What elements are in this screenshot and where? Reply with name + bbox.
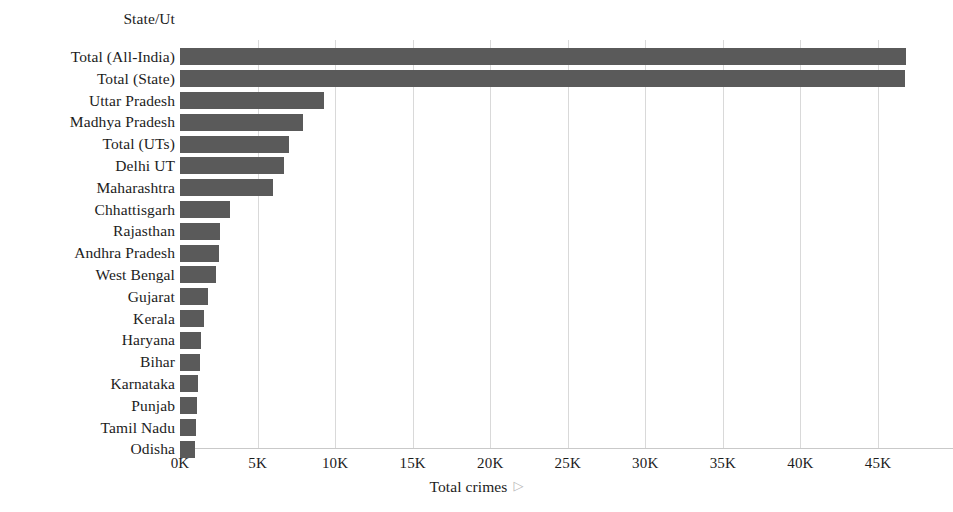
bar-row-label: Madhya Pradesh [0,111,175,133]
x-axis-title: Total crimes▷ [0,478,953,496]
bar [180,70,905,87]
bar [180,223,220,240]
x-tick-label: 25K [555,455,581,472]
bar-row: Punjab [0,395,953,417]
bar-row-label: Haryana [0,329,175,351]
bar-row-label: Total (UTs) [0,133,175,155]
bar-row-label: Odisha [0,438,175,460]
x-tick-label: 10K [322,455,348,472]
bar-row: Total (All-India) [0,46,953,68]
bar-row-label: Delhi UT [0,155,175,177]
bar-row: Gujarat [0,286,953,308]
x-tick-label: 35K [710,455,736,472]
bar-row-label: Gujarat [0,286,175,308]
x-tick-label: 0K [171,455,190,472]
bar-row-label: Total (All-India) [0,46,175,68]
bar-row-label: Bihar [0,351,175,373]
bar-row: Rajasthan [0,220,953,242]
bar [180,354,200,371]
bar [180,288,208,305]
bar-row: Tamil Nadu [0,417,953,439]
x-tick-label: 15K [399,455,425,472]
bar-row-label: Total (State) [0,68,175,90]
bar-row-label: Chhattisgarh [0,199,175,221]
bar [180,201,230,218]
bar [180,397,197,414]
x-tick-label: 45K [865,455,891,472]
bar-row-label: Punjab [0,395,175,417]
bar [180,245,219,262]
bar-row: Bihar [0,351,953,373]
bar [180,332,201,349]
bar [180,157,284,174]
bar-row-label: Tamil Nadu [0,417,175,439]
bar [180,48,906,65]
x-tick-label: 20K [477,455,503,472]
bar-row-label: Maharashtra [0,177,175,199]
y-axis-title: State/Ut [0,10,175,28]
bar [180,266,216,283]
x-tick-label: 30K [632,455,658,472]
bar [180,179,273,196]
x-tick-label: 5K [248,455,267,472]
x-tick-label: 40K [787,455,813,472]
bar-row-label: Karnataka [0,373,175,395]
bar-row: Haryana [0,329,953,351]
bar-chart: State/Ut Total (All-India)Total (State)U… [0,0,953,512]
bar [180,310,204,327]
bar [180,136,289,153]
bar-row-label: Rajasthan [0,220,175,242]
x-axis-title-label: Total crimes [429,478,507,495]
bar-row: West Bengal [0,264,953,286]
bar-row: Karnataka [0,373,953,395]
bar-row: Total (State) [0,68,953,90]
bar-row: Andhra Pradesh [0,242,953,264]
bar-row-label: Uttar Pradesh [0,90,175,112]
bar [180,375,198,392]
x-axis-title-artifact-icon: ▷ [513,478,523,494]
bar-row: Maharashtra [0,177,953,199]
bar-row: Kerala [0,308,953,330]
bar [180,114,303,131]
bar-row-label: Andhra Pradesh [0,242,175,264]
bar [180,419,196,436]
bar-row-label: West Bengal [0,264,175,286]
bar-row: Madhya Pradesh [0,111,953,133]
bar-row: Delhi UT [0,155,953,177]
bar-row: Uttar Pradesh [0,90,953,112]
bar-row-label: Kerala [0,308,175,330]
bar [180,92,324,109]
bar-row: Chhattisgarh [0,199,953,221]
bar-row: Total (UTs) [0,133,953,155]
